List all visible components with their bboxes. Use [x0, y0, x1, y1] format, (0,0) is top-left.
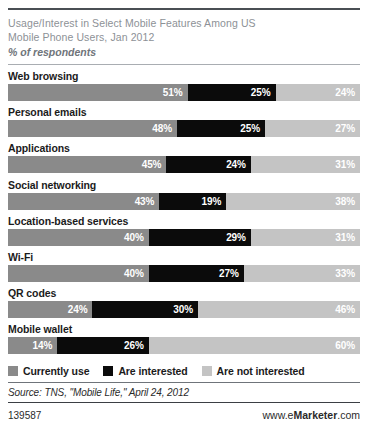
legend-swatch-icon — [103, 366, 113, 376]
segment-are-interested: 29% — [149, 229, 251, 246]
legend-label: Currently use — [23, 365, 89, 377]
segment-are-interested: 25% — [177, 120, 265, 137]
segment-are-interested: 19% — [159, 193, 226, 210]
legend-item: Are interested — [103, 365, 187, 377]
legend-label: Are interested — [118, 365, 187, 377]
stacked-bar-track: 43%19%38% — [8, 193, 360, 210]
chart-subtitle: % of respondents — [8, 44, 360, 59]
segment-currently-use: 45% — [8, 156, 166, 173]
bar-row: Mobile wallet14%26%60% — [8, 322, 360, 354]
brand-name: Marketer — [293, 409, 337, 421]
bar-category-label: Personal emails — [8, 105, 360, 120]
bar-category-label: Web browsing — [8, 69, 360, 84]
segment-currently-use: 14% — [8, 337, 57, 354]
emarketer-brand: www.eMarketer.com — [263, 409, 360, 421]
chart-title-line-1: Usage/Interest in Select Mobile Features… — [8, 17, 360, 31]
chart-footer: 139587 www.eMarketer.com — [8, 403, 360, 421]
segment-are-interested: 24% — [166, 156, 250, 173]
bar-row: Location-based services40%29%31% — [8, 214, 360, 246]
stacked-bar-track: 14%26%60% — [8, 337, 360, 354]
bar-row: Personal emails48%25%27% — [8, 105, 360, 137]
segment-are-not-interested: 27% — [265, 120, 360, 137]
segment-are-not-interested: 46% — [198, 301, 360, 318]
segment-currently-use: 48% — [8, 120, 177, 137]
segment-are-interested: 26% — [57, 337, 149, 354]
legend-item: Currently use — [8, 365, 89, 377]
bar-row: Web browsing51%25%24% — [8, 69, 360, 101]
stacked-bar-track: 51%25%24% — [8, 84, 360, 101]
bar-row: QR codes24%30%46% — [8, 286, 360, 318]
bar-category-label: Wi-Fi — [8, 250, 360, 265]
bar-row: Wi-Fi40%27%33% — [8, 250, 360, 282]
segment-currently-use: 43% — [8, 193, 159, 210]
segment-are-not-interested: 31% — [251, 229, 360, 246]
stacked-bar-track: 45%24%31% — [8, 156, 360, 173]
bar-chart-plot-area: Web browsing51%25%24%Personal emails48%2… — [8, 65, 360, 354]
stacked-bar-track: 40%29%31% — [8, 229, 360, 246]
chart-legend: Currently useAre interestedAre not inter… — [8, 359, 360, 382]
legend-swatch-icon — [8, 366, 18, 376]
bar-category-label: Location-based services — [8, 214, 360, 229]
bar-category-label: QR codes — [8, 286, 360, 301]
bar-category-label: Mobile wallet — [8, 322, 360, 337]
segment-are-not-interested: 60% — [149, 337, 360, 354]
brand-suffix: .com — [337, 409, 360, 421]
segment-currently-use: 40% — [8, 229, 149, 246]
stacked-bar-track: 40%27%33% — [8, 265, 360, 282]
stacked-bar-track: 48%25%27% — [8, 120, 360, 137]
bar-row: Applications45%24%31% — [8, 141, 360, 173]
segment-are-not-interested: 38% — [226, 193, 360, 210]
segment-are-interested: 30% — [92, 301, 198, 318]
segment-are-interested: 27% — [149, 265, 244, 282]
segment-are-interested: 25% — [188, 84, 276, 101]
bar-row: Social networking43%19%38% — [8, 178, 360, 210]
emarketer-chart-card: Usage/Interest in Select Mobile Features… — [0, 8, 368, 430]
segment-currently-use: 51% — [8, 84, 188, 101]
segment-currently-use: 24% — [8, 301, 92, 318]
legend-swatch-icon — [202, 366, 212, 376]
source-note: Source: TNS, "Mobile Life," April 24, 20… — [8, 383, 360, 402]
segment-are-not-interested: 33% — [244, 265, 360, 282]
bar-category-label: Applications — [8, 141, 360, 156]
segment-currently-use: 40% — [8, 265, 149, 282]
segment-are-not-interested: 31% — [251, 156, 360, 173]
chart-id: 139587 — [8, 410, 41, 421]
segment-are-not-interested: 24% — [276, 84, 360, 101]
brand-prefix: www.e — [263, 409, 294, 421]
chart-header: Usage/Interest in Select Mobile Features… — [8, 10, 360, 59]
legend-label: Are not interested — [217, 365, 305, 377]
chart-title-line-2: Mobile Phone Users, Jan 2012 — [8, 31, 360, 45]
stacked-bar-track: 24%30%46% — [8, 301, 360, 318]
legend-item: Are not interested — [202, 365, 305, 377]
bar-category-label: Social networking — [8, 178, 360, 193]
